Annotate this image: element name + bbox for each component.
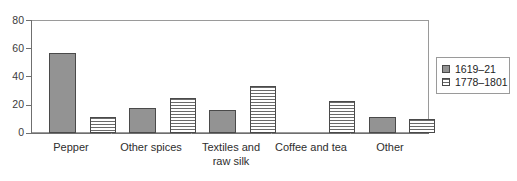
bar-chart: 80 60 40 20 0 <box>0 0 517 181</box>
x-axis-line <box>31 133 429 134</box>
legend-entry-1619-21: 1619–21 <box>442 63 505 75</box>
bar-pepper-1778-1801 <box>90 117 116 133</box>
y-axis-label-40: 40 <box>0 71 24 81</box>
bar-textiles-1619-21 <box>209 110 236 133</box>
x-axis-label-coffee-and-tea: Coffee and tea <box>268 141 354 154</box>
bar-other-1619-21 <box>369 117 396 133</box>
y-axis-label-60: 60 <box>0 43 24 53</box>
legend-label-1619-21: 1619–21 <box>455 64 496 75</box>
striped-swatch-icon <box>442 78 450 86</box>
bars-layer <box>31 20 429 133</box>
x-axis-label-other-spices: Other spices <box>110 141 192 154</box>
legend-entry-1778-1801: 1778–1801 <box>442 76 505 88</box>
solid-swatch-icon <box>442 65 450 73</box>
x-axis-label-textiles-line2: raw silk <box>190 155 272 168</box>
bar-other-spices-1778-1801 <box>170 98 196 133</box>
bar-textiles-1778-1801 <box>250 86 276 133</box>
bar-other-1778-1801 <box>409 119 435 133</box>
bar-coffee-tea-1778-1801 <box>329 101 355 133</box>
bar-pepper-1619-21 <box>49 53 76 134</box>
legend-label-1778-1801: 1778–1801 <box>455 77 508 88</box>
y-axis-label-20: 20 <box>0 99 24 109</box>
legend: 1619–21 1778–1801 <box>436 57 510 94</box>
x-axis-label-textiles-line1: Textiles and <box>190 141 272 154</box>
bar-other-spices-1619-21 <box>129 108 156 133</box>
x-axis-label-pepper: Pepper <box>31 141 111 154</box>
y-axis-label-80: 80 <box>0 15 24 25</box>
x-axis-label-other: Other <box>352 141 428 154</box>
y-axis-label-0: 0 <box>0 127 24 137</box>
